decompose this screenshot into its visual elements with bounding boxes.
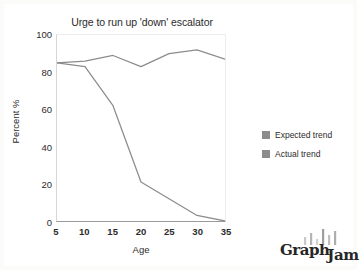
legend-item-label: Expected trend	[275, 130, 332, 140]
y-tick-label: 40	[22, 141, 52, 152]
x-axis-ticks: 5101520253035	[56, 226, 226, 240]
y-tick-label: 20	[22, 179, 52, 190]
x-tick-label: 30	[187, 226, 209, 237]
y-tick-label: 100	[22, 29, 52, 40]
watermark-graph-text: Graph	[280, 241, 329, 259]
y-tick-label: 80	[22, 66, 52, 77]
x-tick-label: 25	[158, 226, 180, 237]
series-lines	[57, 35, 225, 221]
legend-item-label: Actual trend	[275, 149, 320, 159]
y-tick-label: 60	[22, 104, 52, 115]
line-expected-trend	[57, 50, 225, 67]
chart-title: Urge to run up 'down' escalator	[56, 16, 228, 28]
watermark-text: GraphJam	[280, 241, 361, 259]
x-tick-label: 5	[45, 226, 67, 237]
legend-swatch-icon	[262, 150, 270, 158]
legend-item[interactable]: Expected trend	[262, 130, 358, 140]
legend-item[interactable]: Actual trend	[262, 149, 358, 159]
plot-area	[56, 34, 226, 222]
y-axis-ticks: 020406080100	[20, 34, 52, 222]
y-axis-label: Percent %	[10, 87, 21, 157]
x-tick-label: 10	[73, 226, 95, 237]
watermark-jam-text: Jam	[327, 246, 358, 264]
legend-swatch-icon	[262, 131, 270, 139]
chart-legend: Expected trendActual trend	[262, 130, 358, 168]
x-tick-label: 35	[215, 226, 237, 237]
line-actual-trend	[57, 63, 225, 221]
x-axis-label: Age	[56, 244, 226, 255]
chart-canvas: Urge to run up 'down' escalator 02040608…	[4, 4, 353, 266]
graphjam-watermark: GraphJam	[280, 228, 352, 268]
x-tick-label: 15	[102, 226, 124, 237]
x-tick-label: 20	[130, 226, 152, 237]
